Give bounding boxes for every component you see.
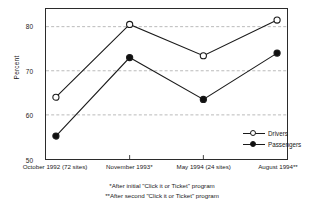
data-point-passengers (53, 133, 59, 139)
data-point-passengers (274, 50, 280, 56)
data-point-passengers (200, 96, 206, 102)
series-lines (56, 20, 277, 136)
footnote: **After second "Click it or Ticket" prog… (0, 191, 324, 201)
y-tick-label: 70 (0, 67, 33, 74)
x-axis-tick-marks (130, 155, 204, 159)
data-point-drivers (274, 17, 280, 23)
data-point-drivers (53, 94, 59, 100)
legend-item-passengers[interactable]: Passengers (243, 139, 301, 150)
x-tick-label: October 1992 (72 sites) (23, 163, 88, 170)
data-point-passengers (127, 54, 133, 60)
series-line-passengers (56, 53, 277, 136)
x-tick-label: August 1994** (258, 163, 298, 170)
y-tick-label: 60 (0, 112, 33, 119)
data-point-drivers (200, 53, 206, 59)
legend-label: Passengers (265, 141, 301, 148)
series-line-drivers (56, 20, 277, 97)
filled-circle-icon (243, 140, 265, 150)
plot-area: DriversPassengers (45, 8, 288, 160)
chart-legend: DriversPassengers (243, 128, 301, 150)
legend-item-drivers[interactable]: Drivers (243, 128, 301, 139)
data-point-drivers (127, 21, 133, 27)
x-tick-label: November 1993* (106, 163, 152, 170)
footnote: *After initial "Click it or Ticket" prog… (0, 181, 324, 191)
x-tick-label: May 1994 (24 sites) (176, 163, 230, 170)
chart-footnotes: *After initial "Click it or Ticket" prog… (0, 181, 324, 201)
open-circle-icon (243, 129, 265, 139)
legend-label: Drivers (265, 130, 288, 137)
chart-figure: Percent 50607080 DriversPassengers Octob… (0, 0, 324, 207)
y-tick-label: 80 (0, 22, 33, 29)
